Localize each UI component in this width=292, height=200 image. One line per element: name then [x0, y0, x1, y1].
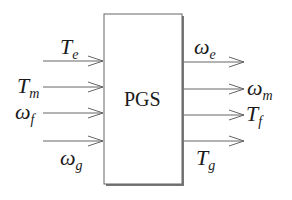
input-label-tm: Tm — [17, 75, 39, 101]
input-label-wg: ωg — [60, 147, 83, 173]
input-arrow-wf — [43, 108, 103, 118]
output-label-wm: ωm — [247, 77, 273, 103]
input-label-wf: ωf — [15, 101, 34, 127]
output-label-tg: Tg — [196, 147, 215, 173]
output-label-tf: Tf — [246, 103, 262, 129]
output-arrow-wm — [184, 84, 244, 94]
output-arrow-tf — [184, 110, 244, 120]
block-label: PGS — [124, 89, 161, 109]
output-label-we: ωe — [194, 36, 216, 62]
output-arrow-tg — [184, 136, 244, 146]
input-label-te: Te — [60, 36, 78, 62]
input-arrow-tm — [43, 82, 103, 92]
